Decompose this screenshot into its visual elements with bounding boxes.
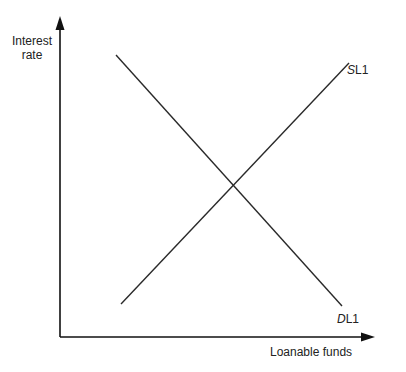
demand-curve-dl1 (116, 55, 342, 306)
x-axis-label: Loanable funds (270, 345, 352, 359)
x-axis-arrow-icon (361, 333, 375, 342)
y-axis-label: Interest rate (6, 34, 58, 62)
demand-label-rest: L1 (346, 312, 359, 326)
y-axis-arrow-icon (56, 16, 65, 30)
supply-label-italic: S (347, 63, 355, 77)
supply-label-rest: L1 (355, 63, 368, 77)
y-axis-label-line2: rate (6, 48, 58, 62)
demand-curve-label: DL1 (337, 312, 359, 326)
demand-label-italic: D (337, 312, 346, 326)
supply-curve-label: SL1 (347, 63, 368, 77)
y-axis-label-line1: Interest (6, 34, 58, 48)
